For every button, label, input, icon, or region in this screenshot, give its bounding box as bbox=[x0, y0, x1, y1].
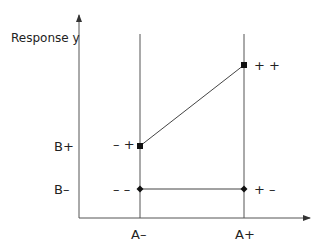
point-plus-plus-marker bbox=[241, 62, 247, 68]
interaction-diagram: Response y B+ B– A– A+ – – + – – + + + bbox=[0, 0, 324, 252]
y-tick-b-plus: B+ bbox=[54, 139, 74, 154]
point-label-plus-minus: + – bbox=[254, 182, 276, 197]
point-minus-minus-marker bbox=[137, 186, 144, 193]
diagram-svg: Response y B+ B– A– A+ – – + – – + + + bbox=[0, 0, 324, 252]
point-label-minus-plus: – + bbox=[113, 137, 135, 152]
point-label-minus-minus: – – bbox=[113, 182, 130, 197]
x-tick-a-plus: A+ bbox=[235, 227, 255, 242]
x-tick-a-minus: A– bbox=[131, 227, 146, 242]
y-axis-label: Response y bbox=[11, 31, 80, 45]
point-minus-plus-marker bbox=[137, 143, 143, 149]
point-plus-minus-marker bbox=[241, 186, 248, 193]
y-tick-b-minus: B– bbox=[54, 182, 69, 197]
point-label-plus-plus: + + bbox=[254, 58, 280, 73]
b-plus-line bbox=[140, 65, 244, 146]
